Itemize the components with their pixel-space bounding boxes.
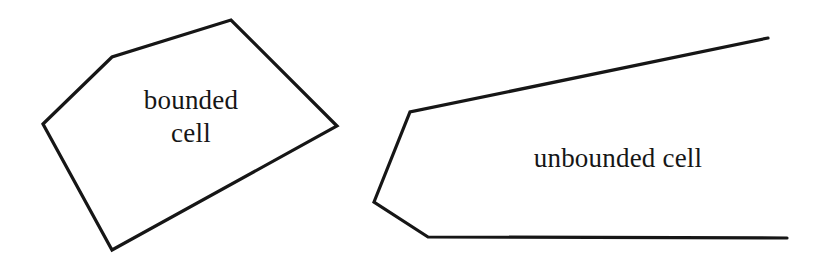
bounded-cell-label: bounded cell (111, 84, 271, 150)
voronoi-cell-figure: bounded cell unbounded cell (0, 0, 814, 266)
unbounded-cell-label: unbounded cell (500, 142, 736, 175)
